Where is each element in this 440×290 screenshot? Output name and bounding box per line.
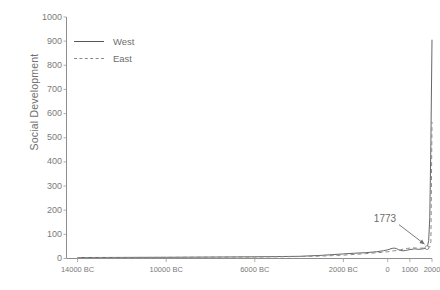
chart-legend: West East <box>74 33 134 67</box>
series-line-west <box>78 40 432 258</box>
legend-label-east: East <box>113 53 132 64</box>
annotation-layer: 1773 <box>374 213 429 250</box>
annotation-arrow-line <box>399 225 425 245</box>
legend-item-east: East <box>74 50 134 67</box>
annotation-label-1773: 1773 <box>374 213 397 224</box>
x-tick-marks <box>78 259 432 263</box>
legend-label-west: West <box>113 36 134 47</box>
series-lines <box>78 40 432 258</box>
legend-line-dashed-icon <box>74 58 104 59</box>
legend-item-west: West <box>74 33 134 50</box>
annotation-point-marker <box>425 246 429 250</box>
series-line-east <box>78 122 432 257</box>
legend-line-solid-icon <box>74 41 104 42</box>
annotation-arrow-head <box>419 239 424 244</box>
